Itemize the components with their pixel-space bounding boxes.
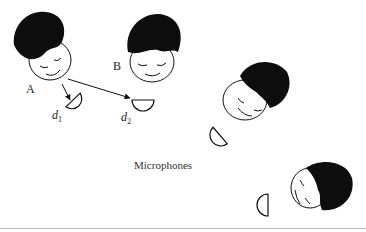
speaker-a-label: A — [26, 83, 35, 95]
microphone-3-icon — [206, 127, 231, 149]
speaker-a-head-icon — [14, 12, 71, 80]
distance-d1-label: d1 — [52, 109, 62, 124]
speaker-d-head-icon — [291, 162, 353, 210]
speaker-b-label: B — [113, 60, 121, 72]
bottom-divider — [0, 228, 366, 229]
microphones-caption: Microphones — [134, 159, 192, 171]
arrow-d1 — [62, 84, 70, 100]
microphone-2-icon — [132, 100, 154, 111]
distance-d1-subscript: 1 — [58, 115, 62, 124]
distance-d2-subscript: 2 — [127, 117, 131, 126]
speaker-c-head-icon — [223, 62, 290, 120]
speaker-b-head-icon — [127, 14, 180, 82]
distance-d2-label: d2 — [121, 111, 131, 126]
microphone-array-diagram: A B d1 d2 Microphones — [0, 0, 366, 232]
microphone-4-icon — [257, 194, 268, 216]
microphone-1-icon — [63, 93, 84, 111]
